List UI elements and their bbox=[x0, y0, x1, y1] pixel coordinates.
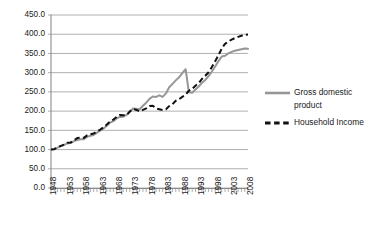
x-axis-tick-labels: 1948195319581963196819731978198319881993… bbox=[49, 176, 255, 195]
legend: Gross domestic product Household Income bbox=[265, 87, 364, 127]
x-tick-label: 1993 bbox=[197, 176, 206, 195]
line-chart: 0.050.0100.0150.0200.0250.0300.0350.0400… bbox=[0, 0, 388, 238]
y-tick-label: 300.0 bbox=[25, 68, 46, 77]
y-tick-label: 450.0 bbox=[25, 10, 46, 19]
y-tick-label: 0.0 bbox=[34, 183, 46, 192]
x-tick-label: 2003 bbox=[230, 176, 239, 195]
legend-item-household-income: Household Income bbox=[265, 117, 364, 127]
y-tick-label: 150.0 bbox=[25, 126, 46, 135]
x-tick-label: 1968 bbox=[115, 176, 124, 195]
x-tick-label: 1973 bbox=[131, 176, 140, 195]
chart-svg: 0.050.0100.0150.0200.0250.0300.0350.0400… bbox=[0, 0, 388, 238]
x-tick-label: 1988 bbox=[181, 176, 190, 195]
x-tick-label: 1978 bbox=[148, 176, 157, 195]
legend-label-gdp-line2: product bbox=[294, 100, 323, 110]
legend-label-household-income: Household Income bbox=[294, 117, 364, 127]
y-tick-label: 400.0 bbox=[25, 29, 46, 38]
x-tick-label: 1963 bbox=[99, 176, 108, 195]
y-tick-label: 350.0 bbox=[25, 49, 46, 58]
x-tick-label: 1998 bbox=[214, 176, 223, 195]
series-gross-domestic-product bbox=[51, 48, 248, 149]
x-tick-label: 1953 bbox=[66, 176, 75, 195]
y-axis-tick-labels: 0.050.0100.0150.0200.0250.0300.0350.0400… bbox=[25, 10, 46, 192]
x-tick-label: 1958 bbox=[82, 176, 91, 195]
x-tick-label: 2008 bbox=[246, 176, 255, 195]
y-tick-label: 50.0 bbox=[29, 164, 45, 173]
x-tick-label: 1948 bbox=[49, 176, 58, 195]
x-tick-label: 1983 bbox=[164, 176, 173, 195]
y-tick-label: 200.0 bbox=[25, 106, 46, 115]
legend-item-gross-domestic-product: Gross domestic product bbox=[265, 87, 352, 110]
y-tick-label: 100.0 bbox=[25, 145, 46, 154]
legend-label-gdp-line1: Gross domestic bbox=[294, 87, 352, 97]
y-tick-label: 250.0 bbox=[25, 87, 46, 96]
